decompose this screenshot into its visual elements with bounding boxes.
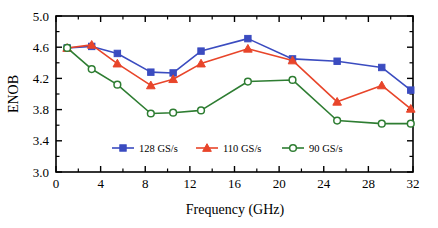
data-point-marker	[245, 78, 252, 85]
x-tick-label: 32	[407, 176, 420, 191]
square-marker	[408, 87, 414, 93]
chart-container: 048121620242832 3.03.43.84.24.65.0 Frequ…	[0, 0, 438, 228]
legend-label: 128 GS/s	[139, 143, 178, 154]
y-tick-label: 3.0	[33, 165, 49, 180]
data-point-marker	[120, 145, 126, 151]
data-point-marker	[114, 81, 121, 88]
data-point-marker	[379, 64, 385, 70]
y-tick-label: 4.6	[33, 40, 50, 55]
square-marker	[334, 58, 340, 64]
x-tick-label: 4	[97, 176, 104, 191]
circle-marker	[407, 120, 414, 127]
y-tick-label: 5.0	[33, 9, 49, 24]
y-tick-label: 3.8	[33, 102, 49, 117]
data-point-marker	[198, 107, 205, 114]
y-tick-label: 4.2	[33, 71, 49, 86]
y-tick-label: 3.4	[33, 133, 50, 148]
legend-label: 110 GS/s	[223, 143, 261, 154]
circle-marker	[198, 107, 205, 114]
data-point-marker	[408, 87, 414, 93]
chart-background	[0, 0, 438, 228]
data-point-marker	[290, 145, 297, 152]
square-marker	[245, 35, 251, 41]
circle-marker	[170, 109, 177, 116]
data-point-marker	[407, 120, 414, 127]
data-point-marker	[334, 58, 340, 64]
circle-marker	[290, 145, 297, 152]
data-point-marker	[147, 110, 154, 117]
square-marker	[148, 69, 154, 75]
square-marker	[120, 145, 126, 151]
x-tick-label: 20	[273, 176, 286, 191]
square-marker	[114, 50, 120, 56]
data-point-marker	[148, 69, 154, 75]
data-point-marker	[289, 77, 296, 84]
data-point-marker	[64, 45, 71, 52]
x-tick-label: 8	[142, 176, 149, 191]
circle-marker	[289, 77, 296, 84]
data-point-marker	[198, 48, 204, 54]
x-tick-label: 28	[362, 176, 375, 191]
circle-marker	[245, 78, 252, 85]
data-point-marker	[245, 35, 251, 41]
x-tick-label: 16	[228, 176, 242, 191]
circle-marker	[88, 66, 95, 73]
data-point-marker	[88, 66, 95, 73]
square-marker	[198, 48, 204, 54]
x-tick-label: 12	[183, 176, 196, 191]
x-tick-label: 0	[53, 176, 60, 191]
circle-marker	[334, 117, 341, 124]
data-point-marker	[170, 109, 177, 116]
circle-marker	[64, 45, 71, 52]
y-axis-label: ENOB	[6, 75, 21, 113]
data-point-marker	[378, 120, 385, 127]
circle-marker	[114, 81, 121, 88]
x-axis-label: Frequency (GHz)	[186, 202, 285, 218]
circle-marker	[147, 110, 154, 117]
square-marker	[379, 64, 385, 70]
data-point-marker	[114, 50, 120, 56]
data-point-marker	[334, 117, 341, 124]
enob-vs-frequency-chart: 048121620242832 3.03.43.84.24.65.0 Frequ…	[0, 0, 438, 228]
x-tick-label: 24	[317, 176, 331, 191]
legend-label: 90 GS/s	[309, 143, 343, 154]
circle-marker	[378, 120, 385, 127]
